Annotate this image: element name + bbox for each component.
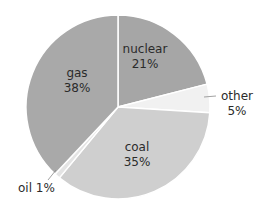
label-oil: oil 1% bbox=[18, 181, 55, 196]
label-coal-pct: 35% bbox=[124, 155, 151, 170]
label-other-pct: 5% bbox=[221, 104, 253, 119]
label-oil-text: oil 1% bbox=[18, 181, 55, 196]
label-other-name: other bbox=[221, 89, 253, 104]
label-gas-name: gas bbox=[64, 66, 91, 81]
pie-slices bbox=[26, 15, 210, 199]
label-nuclear-name: nuclear bbox=[123, 42, 168, 57]
label-nuclear-pct: 21% bbox=[123, 57, 168, 72]
label-coal-name: coal bbox=[124, 140, 151, 155]
label-gas-pct: 38% bbox=[64, 81, 91, 96]
label-coal: coal 35% bbox=[124, 140, 151, 170]
label-gas: gas 38% bbox=[64, 66, 91, 96]
label-nuclear: nuclear 21% bbox=[123, 42, 168, 72]
label-other: other 5% bbox=[221, 89, 253, 119]
